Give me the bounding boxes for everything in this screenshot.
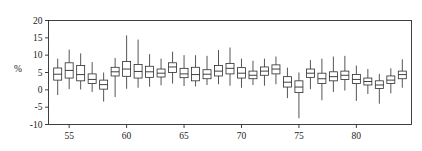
boxplot-box: [272, 57, 280, 85]
boxplot-box: [398, 59, 406, 87]
boxplot-box: [237, 59, 245, 88]
x-tick-label: 80: [352, 131, 362, 141]
boxplot-box: [146, 54, 154, 87]
boxplot-box: [169, 52, 177, 84]
boxplot-box: [318, 59, 326, 101]
boxplot-box: [88, 62, 96, 92]
boxplot-box: [192, 55, 200, 86]
boxplot-box: [157, 59, 165, 86]
boxplot-box: [180, 55, 188, 86]
x-tick-label: 70: [237, 131, 247, 141]
boxplot-box: [77, 53, 85, 89]
x-tick-label: 55: [64, 131, 74, 141]
y-tick-label: 20: [33, 16, 43, 26]
boxplot-series: [54, 35, 407, 118]
x-tick-label: 60: [122, 131, 132, 141]
boxplot-box: [54, 59, 62, 95]
boxplot-box: [387, 68, 395, 93]
box-iqr: [192, 67, 200, 81]
boxplot-box: [364, 69, 372, 94]
boxplot-box: [203, 56, 211, 85]
boxplot-box: [134, 40, 142, 88]
boxplot-box: [283, 68, 291, 99]
box-iqr: [180, 68, 188, 77]
boxplot-box: [123, 35, 131, 88]
y-tick-label: 0: [38, 85, 43, 95]
box-iqr: [77, 66, 85, 81]
y-tick-label: 10: [33, 50, 43, 60]
y-tick-label: -5: [35, 102, 43, 112]
y-axis-tick-group: 20151050-5-10: [30, 16, 49, 130]
boxplot-box: [215, 50, 223, 84]
boxplot-chart-figure: 20151050-5-10 556065707580 %: [0, 0, 422, 151]
x-tick-label: 65: [179, 131, 189, 141]
box-iqr: [88, 74, 96, 84]
boxplot-box: [295, 73, 303, 119]
boxplot-box: [260, 59, 268, 86]
boxplot-box: [226, 48, 234, 86]
y-tick-label: 15: [33, 33, 43, 43]
x-tick-label: 75: [294, 131, 304, 141]
x-axis-tick-group: 556065707580: [64, 125, 361, 141]
boxplot-box: [111, 58, 119, 97]
boxplot-box: [341, 56, 349, 91]
y-axis-title: %: [14, 64, 22, 74]
y-tick-label: -10: [30, 120, 43, 130]
box-iqr: [169, 63, 177, 73]
boxplot-box: [375, 74, 383, 104]
boxplot-box: [65, 50, 73, 90]
boxplot-box: [249, 61, 257, 85]
boxplot-box: [352, 66, 360, 101]
boxplot-box: [306, 60, 314, 89]
chart-canvas: 20151050-5-10 556065707580 %: [0, 0, 422, 151]
y-tick-label: 5: [38, 68, 43, 78]
boxplot-box: [100, 73, 108, 102]
boxplot-box: [329, 57, 337, 92]
